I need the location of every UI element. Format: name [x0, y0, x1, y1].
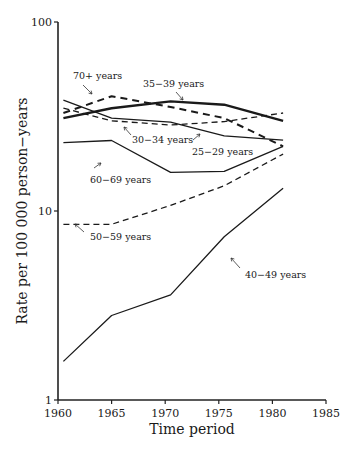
- x-axis-title: Time period: [149, 421, 235, 437]
- series-line-30-34-years: [63, 154, 283, 224]
- x-tick-label: 1960: [44, 407, 72, 420]
- y-axis-title: Rate per 100 000 person−years: [14, 97, 30, 324]
- series-label: 70+ years: [73, 70, 122, 81]
- annotation-arrow-icon: [124, 127, 131, 135]
- y-tick-label: 10: [38, 205, 52, 218]
- line-chart: 196019651970197519801985110100 40−49 yea…: [0, 0, 356, 461]
- series-label: 40−49 years: [245, 269, 306, 280]
- series-label: 35−39 years: [143, 78, 204, 89]
- series-label: 25−29 years: [192, 146, 253, 157]
- y-tick-label: 1: [45, 394, 52, 407]
- x-tick-label: 1980: [258, 407, 286, 420]
- series-line-50-59-years: [63, 101, 283, 120]
- annotation-arrow-icon: [75, 224, 84, 232]
- y-tick-label: 100: [31, 16, 52, 29]
- annotation-arrow-icon: [176, 92, 183, 100]
- series-label: 30−34 years: [132, 134, 193, 145]
- series-label: 60−69 years: [90, 174, 151, 185]
- x-tick-label: 1965: [98, 407, 126, 420]
- annotation-arrow-icon: [231, 258, 240, 268]
- x-tick-label: 1985: [312, 407, 340, 420]
- annotation-arrow-icon: [83, 85, 92, 94]
- series-label: 50−59 years: [90, 231, 151, 242]
- x-tick-label: 1970: [151, 407, 179, 420]
- x-tick-label: 1975: [205, 407, 233, 420]
